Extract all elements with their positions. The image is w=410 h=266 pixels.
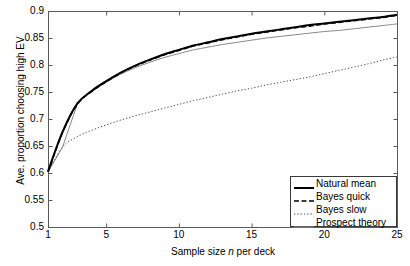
series-line-natural-mean: [48, 15, 397, 172]
legend-rows: Natural meanBayes quickBayes slowProspec…: [291, 178, 396, 229]
x-tick-label: 25: [383, 229, 410, 240]
legend-label: Bayes slow: [316, 205, 367, 215]
legend-line-sample: [294, 192, 314, 202]
x-tick-label: 10: [165, 229, 193, 240]
legend-label: Natural mean: [316, 179, 376, 189]
legend: Natural meanBayes quickBayes slowProspec…: [290, 176, 397, 227]
x-axis-label-text: Sample size: [171, 246, 228, 257]
y-tick-label: 0.8: [18, 60, 44, 70]
legend-line-sample: [294, 218, 314, 228]
x-axis-label-tail: per deck: [234, 246, 275, 257]
y-tick-label: 0.7: [18, 114, 44, 124]
y-tick-label: 0.75: [18, 87, 44, 97]
legend-line-sample: [294, 205, 314, 215]
y-tick-label: 0.65: [18, 141, 44, 151]
legend-label: Bayes quick: [316, 192, 370, 202]
x-tick-label: 5: [92, 229, 120, 240]
legend-label: Prospect theory: [316, 218, 386, 228]
legend-item-bayes-quick: Bayes quick: [291, 191, 396, 203]
legend-item-prospect-theory: Prospect theory: [291, 217, 396, 229]
series-line-bayes-slow: [48, 57, 397, 172]
legend-item-natural-mean: Natural mean: [291, 178, 396, 190]
y-tick-label: 0.85: [18, 33, 44, 43]
x-axis-label: Sample size n per deck: [48, 246, 398, 257]
x-tick-label: 20: [310, 229, 338, 240]
y-tick-label: 0.9: [18, 6, 44, 16]
legend-item-bayes-slow: Bayes slow: [291, 204, 396, 216]
legend-line-sample: [294, 179, 314, 189]
x-tick-label: 1: [34, 229, 62, 240]
x-tick-label: 15: [238, 229, 266, 240]
y-tick-label: 0.55: [18, 195, 44, 205]
y-tick-label: 0.6: [18, 168, 44, 178]
chart-figure: Ave. proportion choosing high EV Sample …: [0, 0, 410, 266]
series-line-prospect-theory: [48, 24, 397, 172]
